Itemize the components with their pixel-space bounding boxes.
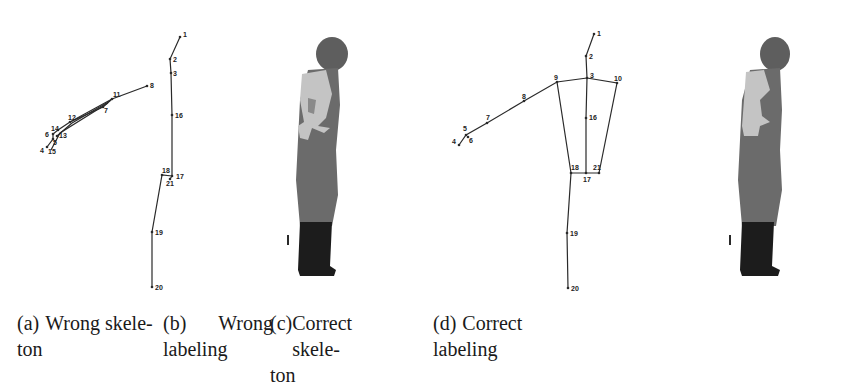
caption-b-line1: Wrong: [218, 310, 273, 336]
svg-text:10: 10: [614, 75, 622, 82]
silhouette-d-figure: [720, 30, 830, 290]
caption-b: (b)Wrong labeling: [163, 310, 273, 362]
caption-d-line2: labeling: [433, 336, 553, 362]
caption-d-tag: (d): [433, 312, 456, 334]
svg-text:1: 1: [597, 30, 601, 37]
caption-a-tag: (a): [17, 312, 39, 334]
svg-text:8: 8: [522, 93, 526, 100]
svg-text:6: 6: [469, 137, 473, 144]
caption-a-line2: ton: [17, 336, 157, 362]
svg-text:16: 16: [589, 114, 597, 121]
svg-text:21: 21: [593, 164, 601, 171]
caption-c-line2: ton: [270, 362, 396, 384]
svg-text:17: 17: [583, 176, 591, 183]
svg-text:9: 9: [554, 74, 558, 81]
caption-c: (c)Correct skele- ton: [270, 310, 396, 384]
caption-a: (a)Wrong skele- ton: [17, 310, 157, 362]
caption-c-tag: (c): [270, 310, 292, 362]
svg-text:3: 3: [590, 72, 594, 79]
svg-text:7: 7: [486, 114, 490, 121]
svg-text:5: 5: [463, 125, 467, 132]
svg-text:20: 20: [571, 285, 579, 292]
caption-a-line1: Wrong skele-: [45, 312, 153, 334]
caption-d-line1: Correct: [462, 312, 522, 334]
caption-b-tag: (b): [163, 310, 186, 336]
panel-d-correct-labeling: [720, 30, 830, 290]
caption-d: (d)Correct labeling: [433, 310, 553, 362]
svg-text:2: 2: [589, 53, 593, 60]
svg-text:4: 4: [452, 138, 456, 145]
caption-b-line2: labeling: [163, 336, 273, 362]
caption-c-line1: Correct skele-: [292, 310, 396, 362]
svg-text:19: 19: [570, 230, 578, 237]
svg-text:18: 18: [571, 164, 579, 171]
